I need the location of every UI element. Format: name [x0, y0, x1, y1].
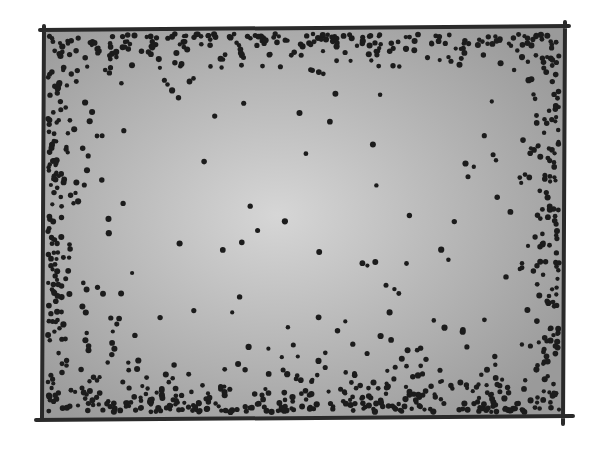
dot [490, 99, 494, 103]
dot [537, 406, 542, 411]
dot [186, 372, 191, 377]
dot [234, 407, 239, 412]
dot [50, 202, 54, 206]
dot [67, 404, 72, 409]
dot [550, 63, 555, 68]
dot [48, 338, 53, 343]
dot [95, 50, 100, 55]
dot [555, 96, 560, 101]
dot [537, 340, 541, 344]
dot [147, 399, 153, 405]
dot [84, 287, 90, 293]
dot [191, 308, 196, 313]
dot [68, 193, 73, 198]
dot [501, 395, 507, 401]
dot [491, 152, 496, 157]
dot [523, 378, 527, 382]
dot [54, 241, 59, 246]
dot [67, 52, 72, 57]
dot [53, 298, 59, 304]
dot [57, 326, 62, 331]
dot [542, 117, 547, 122]
dot [438, 247, 444, 253]
dot [61, 179, 67, 185]
dot [262, 404, 267, 409]
dot [533, 96, 538, 101]
dot [54, 120, 58, 124]
dot [58, 99, 63, 104]
dot [81, 390, 87, 396]
dot [223, 52, 228, 57]
dot [54, 257, 58, 261]
dot [227, 387, 232, 392]
dot [446, 55, 450, 59]
dot [199, 42, 204, 47]
dot [461, 401, 467, 407]
dot [281, 408, 287, 414]
dot [479, 373, 484, 378]
dot [465, 407, 471, 413]
dot [315, 358, 321, 364]
dot [60, 321, 66, 327]
dot [535, 282, 540, 287]
dot [50, 287, 55, 292]
dot [549, 45, 554, 50]
dot [437, 368, 442, 373]
dot [396, 291, 401, 296]
dot [268, 52, 273, 57]
dot [221, 57, 226, 62]
dot [104, 401, 109, 406]
dot [45, 229, 50, 234]
dot [51, 177, 56, 182]
dot [207, 43, 213, 49]
dot [291, 342, 296, 347]
dot [85, 65, 89, 69]
dot [182, 39, 187, 44]
dot [365, 351, 370, 356]
dot [441, 325, 447, 331]
dot [399, 356, 405, 362]
dot [456, 407, 462, 413]
dot [176, 95, 181, 100]
dot [100, 407, 105, 412]
dot [552, 160, 557, 165]
dot [350, 342, 355, 347]
dot [55, 293, 61, 299]
dot [55, 282, 61, 288]
dot [503, 406, 508, 411]
dot [48, 263, 54, 269]
dot [263, 387, 267, 391]
dot [367, 42, 373, 48]
dot [359, 396, 363, 400]
dot [542, 176, 548, 182]
dot [391, 376, 396, 381]
dot [447, 33, 452, 38]
dot [410, 407, 414, 411]
dot [390, 63, 395, 68]
dot [51, 110, 56, 115]
dot [554, 292, 558, 296]
dot [550, 79, 555, 84]
dot [124, 404, 129, 409]
dot [476, 382, 480, 386]
dot [173, 50, 179, 56]
dot [107, 70, 112, 75]
dot [334, 43, 340, 49]
dot [540, 232, 545, 237]
dot [159, 388, 165, 394]
dot [376, 64, 381, 69]
dot [131, 394, 137, 400]
dot [552, 175, 556, 179]
dot [423, 357, 428, 362]
dot [412, 38, 418, 44]
dot [545, 374, 549, 378]
dot [241, 101, 246, 106]
dot [211, 31, 217, 37]
dot [545, 156, 550, 161]
dot [392, 287, 396, 291]
dot [139, 49, 144, 54]
dot [341, 33, 347, 39]
dot [129, 62, 135, 68]
dot [482, 133, 487, 138]
dot [545, 214, 551, 220]
